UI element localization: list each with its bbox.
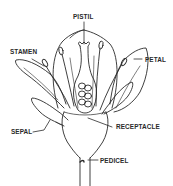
sepal-leader — [33, 120, 50, 132]
pistil-label: PISTIL — [73, 14, 93, 20]
pedicel-stem — [80, 158, 90, 186]
stamen-3-anther — [41, 59, 48, 68]
stamen-label: STAMEN — [10, 49, 37, 55]
sepal-label: SEPAL — [11, 129, 32, 135]
receptacle-label: RECEPTACLE — [116, 124, 160, 130]
stamen-4-anther — [120, 58, 127, 67]
stamen-1-anther — [58, 47, 64, 56]
flower-illustration — [0, 0, 173, 186]
stamen-2-anther — [98, 41, 103, 50]
receptacle-shape — [62, 112, 108, 158]
petal-label: PETAL — [145, 57, 166, 63]
pedicel-label: PEDICEL — [100, 158, 128, 164]
right-sepal — [102, 82, 133, 114]
pistil-leader — [70, 22, 84, 44]
left-sepal — [31, 98, 68, 126]
